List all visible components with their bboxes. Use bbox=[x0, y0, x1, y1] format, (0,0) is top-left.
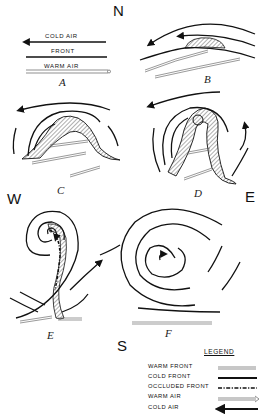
compass-east: E bbox=[245, 188, 255, 205]
panel-e bbox=[10, 211, 120, 323]
legend-item-warm-front: WARM FRONT bbox=[148, 363, 193, 369]
panel-label-d: D bbox=[194, 187, 202, 199]
cold-air-text: COLD AIR bbox=[45, 33, 78, 39]
panel-label-b: B bbox=[204, 73, 211, 85]
panel-label-e: E bbox=[47, 329, 54, 341]
panel-label-c: C bbox=[57, 184, 64, 196]
legend-swatches bbox=[218, 367, 259, 409]
cyclone-diagram bbox=[0, 0, 269, 418]
panel-label-f: F bbox=[165, 327, 172, 339]
panel-d bbox=[150, 92, 248, 184]
legend-item-cold-air: COLD AIR bbox=[148, 404, 179, 410]
compass-west: W bbox=[7, 190, 21, 207]
legend-item-cold-front: COLD FRONT bbox=[148, 373, 191, 379]
panel-b bbox=[140, 24, 255, 78]
legend-item-warm-air: WARM AIR bbox=[148, 393, 181, 399]
legend-title: LEGEND bbox=[204, 348, 234, 355]
legend-item-occluded-front: OCCLUDED FRONT bbox=[148, 383, 209, 389]
panel-f bbox=[121, 209, 240, 324]
compass-south: S bbox=[117, 337, 127, 354]
panel-c bbox=[13, 103, 120, 177]
front-text: FRONT bbox=[51, 48, 75, 54]
warm-air-text: WARM AIR bbox=[44, 63, 79, 69]
compass-north: N bbox=[113, 2, 124, 19]
panel-label-a: A bbox=[59, 76, 66, 88]
